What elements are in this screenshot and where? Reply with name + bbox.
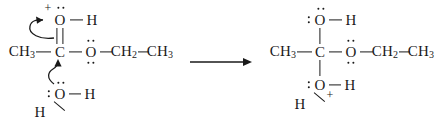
atom-label-ch2: CH2 — [111, 44, 137, 61]
atom-label-carbon: C — [55, 45, 65, 60]
product-atom-label-oxygen-hydroxyl: O — [314, 13, 325, 28]
lone-pair-ester-oxygen-bottom — [87, 62, 94, 64]
product-atom-label-ch3-terminal: CH3 — [408, 44, 434, 61]
atom-label-ch3: CH3 — [9, 44, 35, 61]
product-lone-pair-hydroxyl-oxygen-top — [317, 8, 324, 10]
bond-oester-ch2 — [100, 51, 112, 52]
atom-label-hydrogen-oh: H — [86, 13, 97, 28]
formal-charge-plus-carbonyl-oxygen: + — [45, 2, 52, 14]
curved-arrow-water-to-carbon — [49, 59, 62, 84]
product-lone-pair-ester-oxygen-bottom — [347, 62, 354, 64]
product-bond-oester-ch2 — [360, 51, 373, 52]
product-atom-label-hydrogen-oxonium-1: H — [344, 78, 355, 93]
product-atom-label-ch3: CH3 — [270, 44, 296, 61]
product-atom-label-hydrogen-oxonium-2: H — [294, 97, 305, 112]
product-bond-c-oester — [329, 51, 342, 52]
product-atom-label-carbon: C — [315, 45, 325, 60]
bond-ch2-ch3 — [138, 51, 149, 52]
atom-label-oxygen-ester: O — [85, 45, 96, 60]
atom-label-hydrogen-water-2: H — [34, 105, 45, 120]
bond-ch3-c — [36, 51, 51, 52]
atom-label-ch3-terminal: CH3 — [147, 44, 173, 61]
product-atom-label-hydrogen-hydroxyl: H — [345, 13, 356, 28]
product-bond-ch3-c — [297, 51, 312, 52]
product-lone-pair-hydroxyl-oxygen-left — [308, 16, 310, 23]
product-bond-c-ooxonium — [319, 60, 320, 76]
atom-label-oxygen-carbonyl: O — [54, 13, 65, 28]
product-atom-label-ch2: CH2 — [372, 44, 398, 61]
product-bond-ooxonium-h1 — [329, 84, 341, 85]
bond-c-oester — [69, 51, 82, 52]
lone-pair-carbonyl-oxygen-top — [57, 7, 64, 9]
lone-pair-water-oxygen-top — [57, 82, 64, 84]
product-lone-pair-ester-oxygen-top — [347, 40, 354, 42]
lone-pair-ester-oxygen-top — [87, 40, 94, 42]
product-formal-charge-plus-oxonium: + — [327, 89, 334, 101]
curved-arrow-pi-to-oxygen — [30, 17, 54, 39]
product-atom-label-oxygen-oxonium: O — [314, 78, 325, 93]
lone-pair-water-oxygen-left — [48, 90, 50, 97]
atom-label-oxygen-water: O — [54, 87, 65, 102]
reaction-mechanism-figure: CH3 C O H O CH2 CH3 O H H + — [0, 0, 441, 120]
bond-owater-h1 — [69, 93, 81, 94]
bond-c-o-double-line-1 — [56, 28, 57, 44]
product-bond-c-ohydroxyl — [319, 28, 320, 44]
product-bond-ooxonium-h2 — [314, 92, 325, 102]
bond-c-o-double-line-2 — [62, 28, 63, 44]
bond-ocarbonyl-h — [70, 19, 83, 20]
bond-owater-h2 — [54, 101, 65, 111]
product-atom-label-oxygen-ester: O — [345, 45, 356, 60]
product-bond-ohydroxyl-h — [329, 19, 342, 20]
atom-label-hydrogen-water-1: H — [84, 87, 95, 102]
product-lone-pair-oxonium-oxygen-left — [308, 81, 310, 88]
product-bond-ch2-ch3 — [399, 51, 410, 52]
reaction-arrow-head — [243, 58, 252, 66]
